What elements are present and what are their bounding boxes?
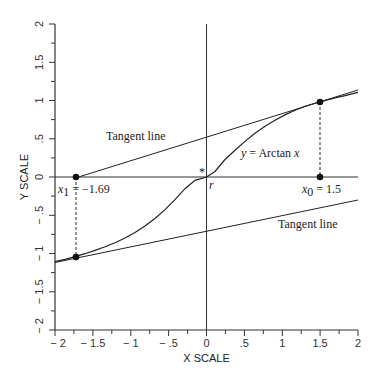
- svg-text:− 1: − 1: [123, 337, 139, 349]
- svg-text:1.5: 1.5: [312, 337, 327, 349]
- svg-text:2: 2: [355, 337, 361, 349]
- tangent-line-lower-label: Tangent line: [278, 217, 337, 231]
- tangent-line-upper-label: Tangent line: [106, 129, 165, 143]
- x-ticks: [55, 330, 358, 336]
- svg-text:− .5: − .5: [33, 206, 45, 225]
- svg-text:− 2: − 2: [50, 337, 66, 349]
- svg-text:1: 1: [279, 337, 285, 349]
- svg-text:− .5: − .5: [159, 337, 178, 349]
- curve-label: y = Arctan x: [240, 146, 300, 160]
- svg-text:0: 0: [33, 174, 45, 180]
- point-x0-on-curve: [317, 99, 324, 106]
- y-axis-title: Y SCALE: [18, 154, 30, 200]
- svg-text:− 1.5: − 1.5: [33, 279, 45, 304]
- svg-text:− 1.5: − 1.5: [81, 337, 106, 349]
- svg-text:1.5: 1.5: [33, 55, 45, 70]
- x-tick-labels: − 2 − 1.5 − 1 − .5 0 .5 1 1.5 2: [50, 337, 361, 349]
- svg-text:.5: .5: [240, 337, 249, 349]
- svg-text:.5: .5: [33, 134, 45, 143]
- svg-text:− 1: − 1: [33, 246, 45, 262]
- svg-text:1: 1: [33, 97, 45, 103]
- x1-label: x1 = −1.69: [57, 182, 110, 199]
- x0-label: x0 = 1.5: [301, 182, 341, 199]
- svg-text:2: 2: [33, 21, 45, 27]
- star-mark: *: [199, 165, 205, 179]
- x-axis-title: X SCALE: [183, 352, 229, 364]
- y-ticks: [49, 24, 55, 330]
- svg-text:0: 0: [203, 337, 209, 349]
- point-x1-on-curve: [73, 254, 80, 261]
- point-x0-on-axis: [317, 174, 324, 181]
- y-tick-labels: 2 1.5 1 .5 0 − .5 − 1 − 1.5 − 2: [33, 21, 45, 334]
- point-x1-on-axis: [73, 174, 80, 181]
- arctan-newton-chart: 2 1.5 1 .5 0 − .5 − 1 − 1.5 − 2 − 2 − 1.…: [0, 0, 381, 384]
- root-label: r: [209, 178, 214, 192]
- svg-text:− 2: − 2: [33, 318, 45, 334]
